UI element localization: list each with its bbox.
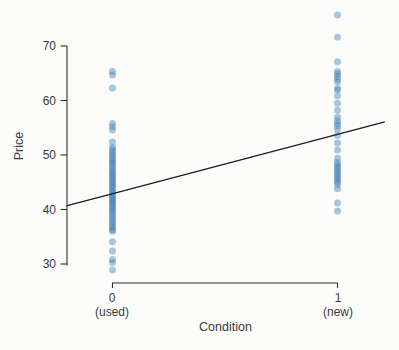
data-point	[334, 87, 341, 94]
data-point	[334, 79, 341, 86]
data-point	[334, 140, 341, 147]
data-points-used	[109, 68, 116, 273]
data-point	[109, 126, 116, 133]
data-point	[334, 34, 341, 41]
y-tick-label-70: 70	[16, 38, 56, 54]
y-tick-label-30: 30	[16, 256, 56, 272]
y-axis	[61, 46, 68, 266]
x-tick-label-1: 1	[293, 291, 383, 306]
data-point	[334, 58, 341, 65]
data-points-new	[334, 11, 341, 214]
data-point	[334, 100, 341, 107]
data-point	[109, 267, 116, 274]
y-tick-label-60: 60	[16, 93, 56, 109]
data-point	[109, 247, 116, 254]
data-point	[334, 208, 341, 215]
x-tick-label-0: 0	[67, 291, 157, 306]
y-tick-label-50: 50	[16, 147, 56, 163]
x-tick-sublabel-new: (new)	[293, 305, 383, 320]
x-axis-label: Condition	[165, 320, 286, 334]
data-point	[334, 11, 341, 18]
data-point	[334, 93, 341, 100]
data-point	[334, 200, 341, 207]
price-vs-condition-scatter-figure: Price 70 60 50 40 30 0 (used) 1 (new) Co…	[0, 0, 399, 350]
data-point	[334, 147, 341, 154]
data-point	[334, 126, 341, 133]
data-point	[109, 71, 116, 78]
data-point	[109, 85, 116, 92]
data-point	[109, 238, 116, 245]
data-point	[109, 259, 116, 266]
y-tick-label-40: 40	[16, 202, 56, 218]
x-tick-sublabel-used: (used)	[67, 305, 157, 320]
data-point	[334, 107, 341, 114]
x-axis	[112, 283, 338, 288]
data-point	[109, 228, 116, 235]
data-point	[334, 185, 341, 192]
